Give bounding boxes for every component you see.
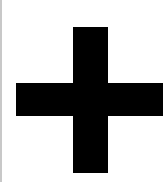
plus-horizontal-bar: [16, 83, 163, 116]
plus-icon-glyph: +: [0, 0, 1, 1]
icon-canvas: +: [0, 0, 163, 182]
plus-icon[interactable]: +: [0, 0, 163, 182]
